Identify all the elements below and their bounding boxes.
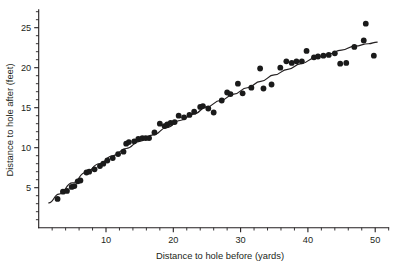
scatter-plot: 5101520251020304050 Distance to hole bef…	[0, 0, 402, 267]
data-point	[176, 113, 182, 119]
data-point	[191, 109, 197, 115]
data-point	[152, 130, 158, 136]
x-tick-label: 10	[101, 235, 111, 245]
data-point	[55, 196, 61, 202]
data-point	[326, 52, 332, 58]
data-point	[211, 110, 217, 116]
data-point	[187, 112, 193, 118]
data-point	[205, 106, 211, 112]
data-point	[71, 183, 77, 189]
data-point	[363, 21, 369, 27]
data-point	[92, 166, 98, 172]
x-tick-label: 30	[235, 235, 245, 245]
axes	[39, 10, 389, 228]
data-point	[64, 188, 70, 194]
x-tick-label: 50	[370, 235, 380, 245]
data-point	[337, 61, 343, 67]
data-point	[126, 139, 132, 145]
y-tick-label: 5	[26, 183, 31, 193]
data-point	[351, 44, 357, 50]
x-tick-label: 20	[168, 235, 178, 245]
data-point	[86, 169, 92, 175]
x-tick-label: 40	[303, 235, 313, 245]
data-point	[332, 50, 338, 56]
fit-line-path	[49, 42, 377, 203]
data-point	[146, 135, 152, 141]
axis-ticks	[34, 12, 388, 233]
data-point	[172, 119, 178, 125]
chart-figure: 5101520251020304050 Distance to hole bef…	[0, 0, 402, 267]
data-point	[371, 53, 377, 59]
y-tick-label: 15	[21, 103, 31, 113]
y-axis-label: Distance to hole after (feet)	[4, 63, 15, 176]
fitted-curve	[49, 42, 377, 203]
data-point	[110, 155, 116, 161]
data-point	[115, 151, 121, 157]
data-point	[228, 91, 234, 97]
data-point	[294, 58, 300, 64]
data-point	[299, 58, 305, 64]
data-point	[304, 48, 310, 54]
y-tick-label: 25	[21, 23, 31, 33]
data-point	[219, 98, 225, 104]
data-point	[283, 58, 289, 64]
data-point	[269, 82, 275, 88]
data-point	[78, 178, 84, 184]
y-tick-label: 10	[21, 143, 31, 153]
data-point	[121, 149, 127, 155]
y-tick-label: 20	[21, 63, 31, 73]
data-points	[55, 21, 377, 202]
data-point	[315, 54, 321, 60]
data-point	[248, 85, 254, 91]
x-axis-label: Distance to hole before (yards)	[156, 250, 284, 261]
data-point	[104, 158, 110, 164]
data-point	[277, 65, 283, 71]
data-point	[361, 38, 367, 44]
data-point	[200, 103, 206, 109]
data-point	[181, 114, 187, 120]
data-point	[261, 86, 267, 92]
data-point	[240, 90, 246, 96]
data-point	[235, 81, 241, 87]
data-point	[257, 66, 263, 72]
data-point	[343, 60, 349, 66]
data-point	[320, 53, 326, 59]
